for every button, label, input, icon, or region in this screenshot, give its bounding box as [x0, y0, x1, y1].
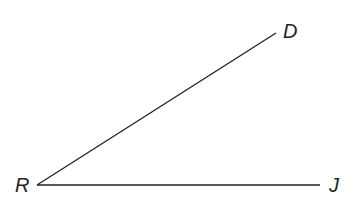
- label-d: D: [283, 20, 297, 42]
- ray-rd: [37, 33, 276, 185]
- label-r: R: [15, 174, 29, 196]
- label-j: J: [328, 174, 340, 196]
- angle-diagram: R D J: [0, 0, 361, 197]
